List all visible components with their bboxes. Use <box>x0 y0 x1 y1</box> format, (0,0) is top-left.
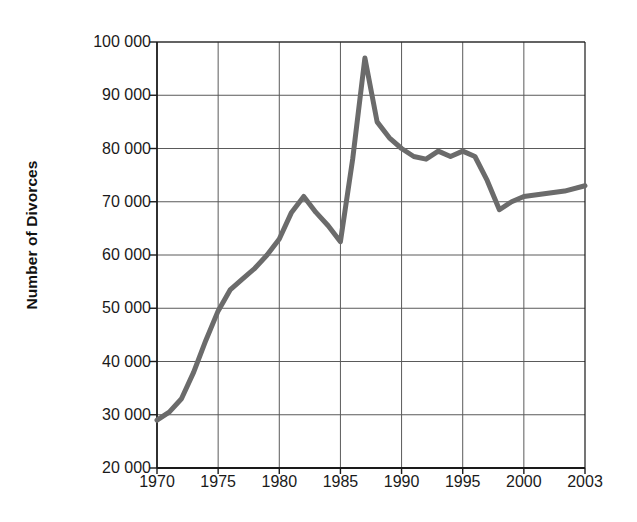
x-tick-label: 2003 <box>567 474 603 490</box>
x-tick-label: 1980 <box>261 474 297 490</box>
divorces-line-chart: Number of Divorces 20 00030 00040 00050 … <box>0 0 637 522</box>
x-tick-label: 1970 <box>139 474 175 490</box>
x-tick-label: 1995 <box>445 474 481 490</box>
x-tick-label: 1990 <box>384 474 420 490</box>
x-axis-tick-labels: 19701975198019851990199520002003 <box>0 0 637 522</box>
x-tick-label: 1975 <box>200 474 236 490</box>
x-tick-label: 1985 <box>323 474 359 490</box>
x-tick-label: 2000 <box>506 474 542 490</box>
